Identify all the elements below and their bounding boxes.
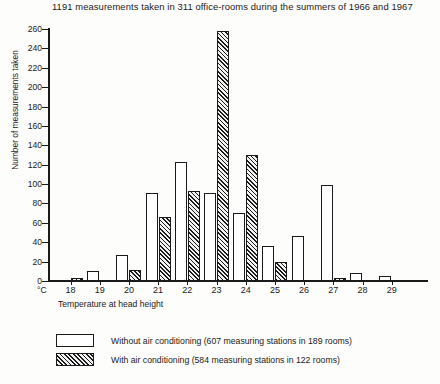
y-tick	[42, 165, 49, 166]
y-tick	[42, 262, 49, 263]
legend-swatch-hatched	[56, 353, 94, 366]
x-axis-unit-label: °C	[37, 285, 47, 295]
plot-area	[48, 28, 428, 283]
bar-23-with-ac	[217, 31, 229, 281]
chart-figure: 1191 measurements taken in 311 office-ro…	[0, 0, 440, 384]
x-tick-label-23: 23	[203, 285, 231, 295]
y-tick-label: 260	[28, 25, 42, 34]
y-tick	[42, 203, 49, 204]
y-tick-label: 20	[32, 258, 42, 267]
bar-24-without-ac	[233, 213, 245, 281]
y-tick-label: 160	[28, 122, 42, 131]
y-tick-label: 200	[28, 83, 42, 92]
y-tick-label: 60	[32, 219, 42, 228]
y-tick-label: 80	[32, 199, 42, 208]
y-tick-label: 240	[28, 44, 42, 53]
y-tick-label: 220	[28, 64, 42, 73]
y-tick	[42, 126, 49, 127]
y-tick-label: 120	[28, 161, 42, 170]
chart-legend: Without air conditioning (607 measuring …	[56, 331, 436, 369]
bar-25-with-ac	[275, 262, 287, 281]
legend-item-without-ac: Without air conditioning (607 measuring …	[56, 331, 436, 350]
x-tick-label-20: 20	[115, 285, 143, 295]
x-tick-label-22: 22	[173, 285, 201, 295]
y-tick	[42, 107, 49, 108]
bar-22-without-ac	[175, 162, 187, 281]
y-tick	[42, 68, 49, 69]
legend-item-with-ac: With air conditioning (584 measuring sta…	[56, 350, 436, 369]
y-tick	[42, 242, 49, 243]
x-tick-label-24: 24	[232, 285, 260, 295]
x-tick-label-25: 25	[261, 285, 289, 295]
y-axis-title: Number of measurements taken	[10, 40, 20, 180]
y-tick-label: 100	[28, 180, 42, 189]
bar-27-without-ac	[321, 185, 333, 281]
bar-25-without-ac	[262, 246, 274, 281]
x-tick-label-26: 26	[290, 285, 318, 295]
legend-label-with-ac: With air conditioning (584 measuring sta…	[111, 355, 340, 365]
bar-26-without-ac	[292, 236, 304, 281]
y-tick	[42, 223, 49, 224]
x-tick-label-29: 29	[378, 285, 406, 295]
x-tick-label-27: 27	[319, 285, 347, 295]
y-tick-label: 180	[28, 103, 42, 112]
legend-label-without-ac: Without air conditioning (607 measuring …	[111, 336, 352, 346]
bar-21-with-ac	[159, 217, 171, 281]
y-tick-label: 140	[28, 141, 42, 150]
x-axis-title: Temperature at head height	[58, 299, 163, 309]
y-tick	[42, 29, 49, 30]
bar-24-with-ac	[246, 155, 258, 281]
y-tick	[42, 145, 49, 146]
bar-20-without-ac	[116, 255, 128, 281]
chart-title: 1191 measurements taken in 311 office-ro…	[52, 1, 438, 12]
y-tick	[42, 184, 49, 185]
bar-22-with-ac	[188, 191, 200, 281]
x-tick-label-21: 21	[144, 285, 172, 295]
y-tick-label: 40	[32, 238, 42, 247]
bar-23-without-ac	[204, 193, 216, 281]
y-tick	[42, 87, 49, 88]
bar-21-without-ac	[146, 193, 158, 281]
x-tick-label-18: 18	[57, 285, 85, 295]
legend-swatch-plain	[56, 334, 94, 347]
y-tick	[42, 48, 49, 49]
y-axis-line	[48, 28, 50, 282]
x-tick-label-19: 19	[86, 285, 114, 295]
x-tick-label-28: 28	[349, 285, 377, 295]
